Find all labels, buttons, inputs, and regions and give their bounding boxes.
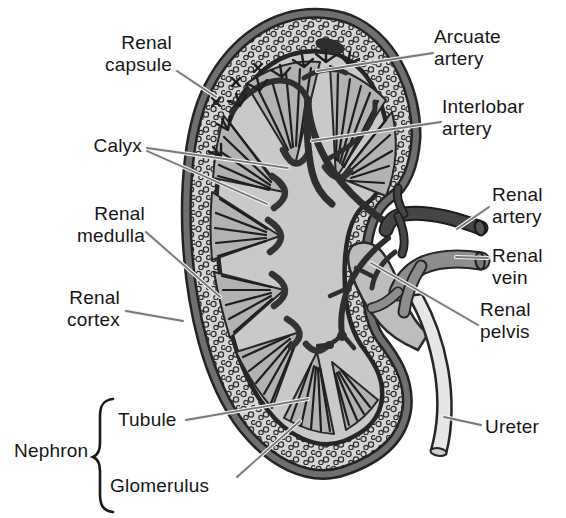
label-glomerulus: Glomerulus [110, 475, 209, 497]
label-renal-vein: Renal vein [492, 245, 543, 289]
label-tubule: Tubule [118, 409, 177, 431]
kidney-anatomy-diagram: Renal capsule Calyx Renal medulla Renal … [0, 0, 566, 518]
label-arcuate-artery: Arcuate artery [434, 26, 501, 70]
leader-renal-vein [456, 257, 488, 258]
label-nephron: Nephron [14, 440, 88, 462]
label-renal-cortex: Renal cortex [67, 287, 120, 331]
label-renal-artery: Renal artery [492, 184, 543, 228]
label-ureter: Ureter [485, 416, 539, 438]
label-renal-pelvis: Renal pelvis [480, 299, 531, 343]
leader-renal-cortex [126, 311, 183, 321]
label-renal-medulla: Renal medulla [77, 203, 145, 247]
label-interlobar-artery: Interlobar artery [442, 96, 524, 140]
label-calyx: Calyx [93, 135, 142, 157]
label-renal-capsule: Renal capsule [105, 32, 172, 76]
